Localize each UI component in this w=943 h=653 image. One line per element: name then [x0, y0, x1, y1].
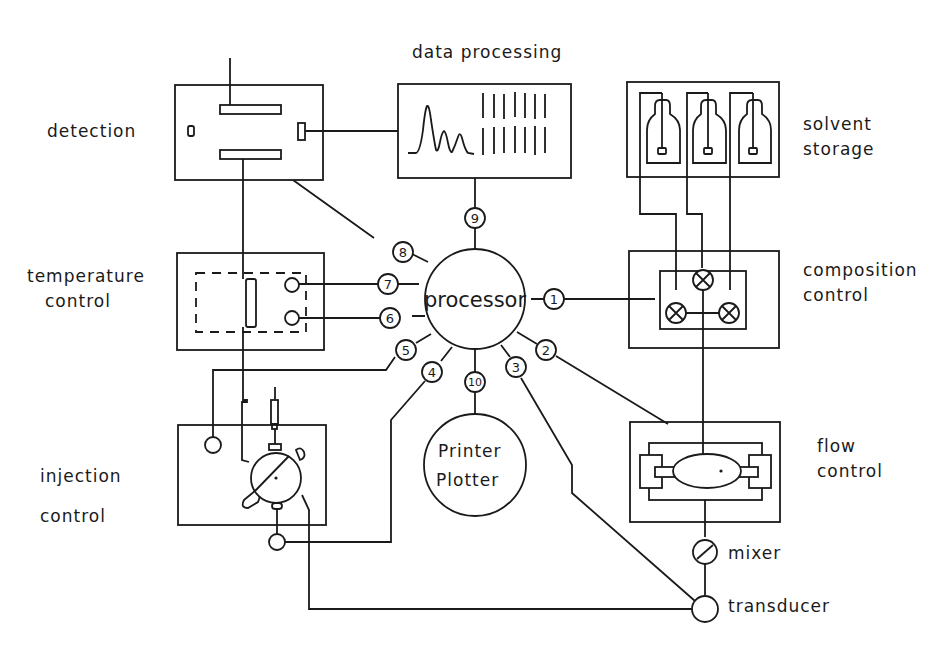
- composition-control-module: composition control: [629, 251, 918, 468]
- svg-text:9: 9: [471, 211, 479, 226]
- svg-text:2: 2: [542, 343, 550, 358]
- printer-plotter: Printer Plotter: [424, 414, 526, 516]
- mixing-valve-icon: [666, 303, 686, 323]
- heater-icon: [285, 311, 299, 325]
- transducer-label: transducer: [728, 596, 830, 616]
- svg-text:4: 4: [428, 365, 436, 380]
- svg-text:5: 5: [402, 343, 410, 358]
- printer-label: Printer: [438, 441, 502, 461]
- processor-label: processor: [424, 288, 527, 312]
- svg-text:7: 7: [384, 277, 392, 292]
- connector-8: 8: [393, 242, 413, 262]
- solvent-line-c: [730, 93, 753, 290]
- temperature-control-box: [177, 253, 324, 350]
- detection-cell-bottom: [220, 150, 281, 159]
- temperature-control-label-1: temperature: [27, 266, 145, 286]
- pump-icon: [640, 454, 771, 488]
- connector-2: 2: [536, 340, 556, 360]
- injection-control-label-1: injection: [40, 466, 122, 486]
- solvent-storage-label-1: solvent: [803, 114, 872, 134]
- composition-control-label-1: composition: [803, 260, 918, 280]
- solvent-storage-module: solvent storage: [627, 82, 875, 290]
- connector-4: 4: [422, 362, 442, 382]
- injection-sensor-icon: [205, 437, 221, 453]
- composition-control-label-2: control: [803, 285, 869, 305]
- data-bars-icon: [483, 92, 545, 155]
- transducer-icon: [692, 596, 718, 622]
- column-icon: [246, 279, 256, 327]
- mixer-unit: mixer: [693, 540, 781, 595]
- solvent-line-b: [687, 93, 708, 268]
- column-oven: [196, 273, 306, 332]
- processor-hub: processor: [424, 249, 527, 349]
- transducer-unit: transducer: [692, 596, 830, 622]
- printer-plotter-circle: [424, 414, 526, 516]
- solvent-line-a: [640, 93, 676, 290]
- injection-control-module: injection control: [40, 387, 326, 526]
- chromatogram-peaks-icon: [408, 106, 474, 154]
- solvent-bottle-icon: [739, 93, 771, 163]
- solvent-bottle-icon: [647, 93, 680, 163]
- mixing-valve-icon: [719, 303, 739, 323]
- light-source-icon: [188, 126, 194, 136]
- mixer-label: mixer: [728, 543, 781, 563]
- data-processing-label: data processing: [412, 42, 562, 62]
- detection-module: detection: [47, 58, 398, 180]
- temperature-control-label-2: control: [45, 291, 111, 311]
- injection-valve-icon: [243, 444, 305, 509]
- flow-control-module: flow control: [630, 422, 883, 537]
- svg-text:8: 8: [399, 245, 407, 260]
- temperature-sensor-icon: [285, 278, 299, 292]
- data-processing-module: data processing: [398, 42, 571, 178]
- detection-cell-top: [220, 105, 281, 114]
- solvent-bottle-icon: [693, 93, 726, 163]
- svg-text:3: 3: [512, 360, 520, 375]
- temperature-control-module: temperature control: [27, 253, 324, 350]
- solvent-storage-label-2: storage: [803, 139, 875, 159]
- connector-3: 3: [506, 357, 526, 377]
- detection-box: [175, 85, 323, 180]
- connector-10: 10: [465, 372, 485, 392]
- plotter-label: Plotter: [436, 470, 499, 490]
- detection-label: detection: [47, 121, 136, 141]
- svg-text:6: 6: [386, 311, 394, 326]
- injection-control-label-2: control: [40, 506, 106, 526]
- connector-5: 5: [396, 340, 416, 360]
- transducer-to-injector-line: [302, 495, 692, 609]
- flow-control-label-2: control: [817, 461, 883, 481]
- injection-port-icon: [269, 534, 285, 550]
- connector-9: 9: [465, 208, 485, 228]
- svg-text:10: 10: [468, 376, 482, 389]
- photodetector-icon: [298, 123, 305, 140]
- flow-control-label-1: flow: [817, 436, 856, 456]
- connector-lines: [213, 178, 695, 601]
- svg-text:1: 1: [550, 292, 558, 307]
- hplc-diagram: data processing detection solvent storag…: [0, 0, 943, 653]
- mixing-valve-icon: [693, 270, 713, 290]
- connector-1: 1: [544, 289, 564, 309]
- syringe-icon: [271, 387, 278, 444]
- connector-6: 6: [380, 308, 400, 328]
- connector-7: 7: [378, 274, 398, 294]
